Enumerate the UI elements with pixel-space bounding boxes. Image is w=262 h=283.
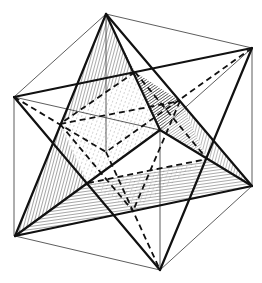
stella-octangula-diagram [0, 0, 262, 283]
diagram-canvas [0, 0, 262, 283]
